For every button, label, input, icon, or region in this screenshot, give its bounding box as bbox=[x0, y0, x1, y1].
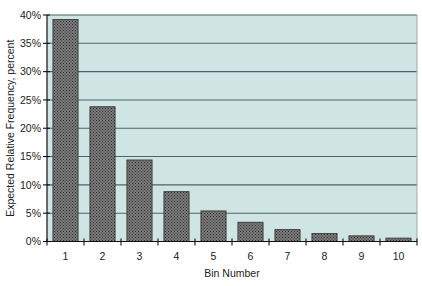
x-tick-label: 6 bbox=[248, 250, 254, 262]
bar-chart: 0%5%10%15%20%25%30%35%40% 12345678910 Bi… bbox=[0, 0, 422, 286]
y-tick-label: 20% bbox=[20, 122, 41, 134]
x-tick-label: 10 bbox=[393, 250, 405, 262]
y-axis-title: Expected Relative Frequency, percent bbox=[4, 40, 16, 217]
y-tick-label: 0% bbox=[26, 235, 41, 247]
x-tick-label: 8 bbox=[322, 250, 328, 262]
x-tick-label: 9 bbox=[359, 250, 365, 262]
bar-8 bbox=[312, 234, 337, 242]
y-axis-ticks: 0%5%10%15%20%25%30%35%40% bbox=[20, 9, 50, 248]
bar-5 bbox=[201, 211, 226, 242]
bar-7 bbox=[275, 230, 300, 242]
x-tick-label: 3 bbox=[137, 250, 143, 262]
y-tick-label: 25% bbox=[20, 94, 41, 106]
x-axis-title: Bin Number bbox=[204, 267, 260, 279]
x-tick-label: 7 bbox=[285, 250, 291, 262]
x-tick-label: 4 bbox=[174, 250, 180, 262]
bar-6 bbox=[238, 222, 263, 241]
y-tick-label: 5% bbox=[26, 207, 41, 219]
bar-9 bbox=[349, 236, 374, 242]
x-tick-label: 5 bbox=[211, 250, 217, 262]
x-tick-label: 1 bbox=[63, 250, 69, 262]
y-tick-label: 35% bbox=[20, 37, 41, 49]
y-tick-label: 15% bbox=[20, 150, 41, 162]
y-tick-label: 40% bbox=[20, 9, 41, 21]
x-tick-label: 2 bbox=[100, 250, 106, 262]
bar-3 bbox=[127, 160, 152, 242]
bar-1 bbox=[53, 20, 78, 242]
bar-2 bbox=[90, 107, 115, 242]
y-tick-label: 30% bbox=[20, 65, 41, 77]
y-tick-label: 10% bbox=[20, 179, 41, 191]
bar-4 bbox=[164, 192, 189, 242]
